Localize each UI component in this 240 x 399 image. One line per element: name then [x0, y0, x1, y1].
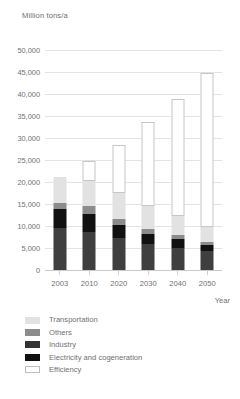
bar-stack[interactable] — [83, 161, 96, 270]
gridline — [45, 94, 222, 95]
x-axis-tick-label: 2003 — [51, 279, 68, 288]
y-axis-tick-label: 20,000 — [17, 178, 40, 187]
bar-segment[interactable] — [83, 214, 96, 232]
bar-segment[interactable] — [142, 206, 155, 229]
y-axis-title: Million tons/a — [22, 11, 68, 20]
legend-item-label: Industry — [49, 341, 76, 349]
bar-segment[interactable] — [112, 193, 125, 219]
bar-segment[interactable] — [142, 244, 155, 270]
y-axis-tick-label: 40,000 — [17, 90, 40, 99]
bar-stack[interactable] — [112, 145, 125, 270]
legend-item[interactable]: Efficiency — [25, 364, 142, 376]
gridline — [45, 160, 222, 161]
bar-segment[interactable] — [53, 209, 66, 227]
gridline — [45, 226, 222, 227]
y-axis-tick-label: 25,000 — [17, 156, 40, 165]
y-axis-tick-label: 5,000 — [22, 244, 41, 253]
x-axis-tickmark — [207, 270, 208, 275]
legend-item[interactable]: Others — [25, 326, 142, 338]
bar-segment[interactable] — [201, 251, 214, 270]
chart-container: Million tons/a 05,00010,00015,00020,0002… — [0, 0, 240, 399]
legend-swatch-icon — [25, 329, 40, 336]
x-axis-tick-label: 2010 — [81, 279, 98, 288]
bar-segment[interactable] — [171, 248, 184, 270]
legend-swatch-icon — [25, 317, 40, 324]
x-axis-tick-label: 2030 — [140, 279, 157, 288]
legend-item-label: Transportation — [49, 316, 98, 324]
bar-segment[interactable] — [201, 227, 214, 242]
plot-area: 05,00010,00015,00020,00025,00030,00035,0… — [45, 50, 222, 270]
bar-segment[interactable] — [112, 145, 125, 193]
y-axis-tick-label: 50,000 — [17, 46, 40, 55]
gridline — [45, 50, 222, 51]
legend-item-label: Others — [49, 329, 72, 337]
x-axis-title: Year — [215, 296, 230, 305]
gridline — [45, 182, 222, 183]
chart-legend: TransportationOthersIndustryElectricity … — [25, 314, 142, 376]
y-axis-tick-label: 30,000 — [17, 134, 40, 143]
legend-swatch-icon — [25, 354, 40, 361]
gridline — [45, 248, 222, 249]
bar-stack[interactable] — [171, 99, 184, 270]
bar-segment[interactable] — [83, 181, 96, 207]
y-axis-tick-label: 10,000 — [17, 222, 40, 231]
bar-stack[interactable] — [201, 73, 214, 270]
y-axis-tick-label: 15,000 — [17, 200, 40, 209]
legend-item-label: Efficiency — [49, 366, 81, 374]
bar-segment[interactable] — [53, 177, 66, 203]
bar-segment[interactable] — [83, 232, 96, 270]
bar-segment[interactable] — [142, 234, 155, 244]
x-axis-tickmark — [89, 270, 90, 275]
x-axis-tickmark — [148, 270, 149, 275]
bar-segment[interactable] — [171, 239, 184, 247]
x-axis-tick-label: 2020 — [110, 279, 127, 288]
legend-item[interactable]: Electricity and cogeneration — [25, 351, 142, 363]
bar-stack[interactable] — [53, 177, 66, 270]
gridline — [45, 116, 222, 117]
y-axis-tick-label: 35,000 — [17, 112, 40, 121]
bar-segment[interactable] — [83, 161, 96, 180]
x-axis-tickmark — [59, 270, 60, 275]
bar-segment[interactable] — [142, 122, 155, 206]
bar-segment[interactable] — [112, 225, 125, 238]
y-axis-tick-label: 0 — [36, 266, 40, 275]
x-axis-tickmark — [177, 270, 178, 275]
bar-segment[interactable] — [112, 238, 125, 270]
legend-item[interactable]: Industry — [25, 339, 142, 351]
x-axis-tickmark — [118, 270, 119, 275]
bar-segment[interactable] — [53, 203, 66, 210]
x-axis-tick-label: 2040 — [169, 279, 186, 288]
gridline — [45, 72, 222, 73]
legend-swatch-icon — [25, 366, 40, 373]
legend-swatch-icon — [25, 341, 40, 348]
bar-segment[interactable] — [171, 99, 184, 216]
bar-stack[interactable] — [142, 122, 155, 270]
x-axis-tick-label: 2050 — [199, 279, 216, 288]
legend-item-label: Electricity and cogeneration — [49, 354, 142, 362]
gridline — [45, 204, 222, 205]
bar-segment[interactable] — [83, 206, 96, 214]
bar-segment[interactable] — [112, 219, 125, 226]
legend-item[interactable]: Transportation — [25, 314, 142, 326]
bar-segment[interactable] — [201, 73, 214, 227]
bar-segment[interactable] — [171, 216, 184, 235]
gridline — [45, 138, 222, 139]
y-axis-tick-label: 45,000 — [17, 68, 40, 77]
gridline — [45, 270, 222, 271]
bar-segment[interactable] — [53, 228, 66, 270]
